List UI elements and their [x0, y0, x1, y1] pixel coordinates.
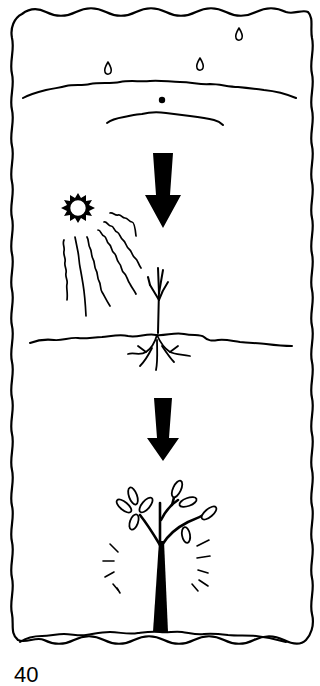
tree-icon — [115, 479, 219, 632]
raindrop-icon — [105, 62, 112, 74]
raindrop-icon — [236, 28, 243, 40]
seed-icon — [159, 97, 165, 103]
raindrop-icon — [197, 58, 204, 70]
raindrops — [105, 28, 243, 74]
soil-mound — [107, 112, 223, 125]
page-number: 40 — [14, 664, 38, 686]
arrow-down-icon — [147, 398, 179, 461]
tree-trunk — [153, 541, 168, 632]
arrow-down-icon — [145, 153, 181, 228]
roots-icon — [128, 335, 190, 370]
ground-line — [23, 81, 296, 98]
sun-icon — [61, 193, 95, 223]
sprout-icon — [148, 268, 168, 333]
sun-rays — [63, 213, 141, 316]
